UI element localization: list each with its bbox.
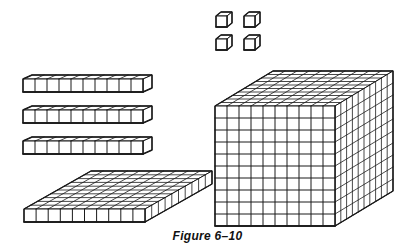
ten-rods-group (23, 75, 152, 154)
hundred-flat (24, 171, 212, 222)
unit-cube-3 (216, 35, 232, 50)
unit-cube-4 (244, 35, 260, 50)
ten-rod-3 (23, 137, 152, 154)
unit-cubes-group (216, 12, 260, 50)
thousand-cube (215, 71, 393, 226)
hundred-flat-block (24, 171, 212, 222)
ten-rod-1 (23, 75, 152, 92)
unit-cube-1 (216, 12, 232, 27)
thousand-cube-block (215, 71, 393, 226)
unit-cube-2 (244, 12, 260, 27)
base-ten-blocks-figure (0, 0, 415, 249)
ten-rod-2 (23, 106, 152, 123)
figure-caption: Figure 6–10 (0, 229, 415, 243)
